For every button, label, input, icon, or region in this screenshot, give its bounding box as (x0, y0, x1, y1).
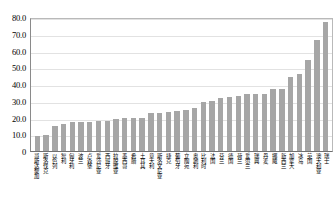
bar-slot (243, 19, 252, 151)
bar-slot (42, 19, 51, 151)
category-tick-label: 希腊 (130, 153, 136, 163)
category-slot: 卢森堡 (85, 153, 94, 216)
bar[interactable] (105, 121, 110, 151)
bar-slot (321, 19, 330, 151)
bar-slot (313, 19, 322, 151)
bar[interactable] (209, 101, 214, 151)
category-tick-label: 捷克 (166, 153, 172, 163)
category-tick-label: 土耳其 (139, 153, 145, 168)
category-slot: 智利 (58, 153, 67, 216)
bar[interactable] (96, 121, 101, 151)
bar-slot (138, 19, 147, 151)
bar-slot (251, 19, 260, 151)
bar-chart: 80.070.060.050.040.030.020.010.00 哥斯达黎加斯… (0, 0, 335, 216)
bar[interactable] (166, 112, 171, 151)
category-slot: 荷兰 (234, 153, 243, 216)
bar[interactable] (113, 119, 118, 151)
category-slot: 澳大利亚 (314, 153, 323, 216)
category-tick-label: 匈牙利 (69, 153, 75, 168)
category-slot: 希腊 (129, 153, 138, 216)
bar-slot (304, 19, 313, 151)
bar[interactable] (192, 108, 197, 151)
bar-slot (199, 19, 208, 151)
bar[interactable] (201, 102, 206, 151)
bar[interactable] (236, 96, 241, 151)
bar[interactable] (52, 126, 57, 151)
category-slot: 匈牙利 (67, 153, 76, 216)
bar[interactable] (323, 22, 328, 151)
category-slot: 奥地利 (190, 153, 199, 216)
bar-slot (190, 19, 199, 151)
bar-slot (208, 19, 217, 151)
category-slot: 以色列 (50, 153, 59, 216)
category-tick-label: 墨西哥 (122, 153, 128, 168)
bar-slot (147, 19, 156, 151)
bar[interactable] (131, 118, 136, 151)
bar[interactable] (139, 118, 144, 151)
bar[interactable] (270, 89, 275, 151)
bar[interactable] (157, 113, 162, 151)
bar[interactable] (227, 97, 232, 151)
category-slot: 加拿大 (287, 153, 296, 216)
bar[interactable] (288, 77, 293, 151)
category-slot: 斯洛文尼亚 (155, 153, 164, 216)
bar[interactable] (279, 89, 284, 151)
bar-slot (112, 19, 121, 151)
category-slot: 德国 (226, 153, 235, 216)
y-axis-tick-label: 10.0 (12, 130, 26, 140)
bar-slot (155, 19, 164, 151)
bar-slot (103, 19, 112, 151)
bar-slot (173, 19, 182, 151)
category-slot: 葡萄牙 (173, 153, 182, 216)
bar[interactable] (244, 94, 249, 151)
bar[interactable] (78, 122, 83, 151)
bar[interactable] (262, 94, 267, 151)
category-tick-label: 西班牙 (104, 153, 110, 168)
category-slot: 挪威 (270, 153, 279, 216)
category-tick-label: 澳大利亚 (315, 153, 321, 173)
bar-slot (278, 19, 287, 151)
category-slot: 比利时 (199, 153, 208, 216)
plot-area (30, 18, 333, 152)
category-slot: 捷克 (164, 153, 173, 216)
bar[interactable] (314, 40, 319, 151)
category-slot: 爱尔兰 (243, 153, 252, 216)
bar-slot (33, 19, 42, 151)
category-slot: 波兰 (76, 153, 85, 216)
category-tick-label: 比利时 (201, 153, 207, 168)
category-slot: 芬兰 (217, 153, 226, 216)
category-slot: 墨西哥 (120, 153, 129, 216)
category-slot: 土耳其 (138, 153, 147, 216)
category-slot: 法国 (208, 153, 217, 216)
bar[interactable] (218, 98, 223, 151)
bar[interactable] (61, 124, 66, 151)
bar-slot (181, 19, 190, 151)
category-slot: 瑞典 (252, 153, 261, 216)
bar[interactable] (305, 60, 310, 151)
category-slot: 立陶宛 (182, 153, 191, 216)
bar[interactable] (43, 135, 48, 151)
category-tick-label: 瑞典 (254, 153, 260, 163)
bar-slot (225, 19, 234, 151)
category-tick-label: 波兰 (78, 153, 84, 163)
bar-slot (120, 19, 129, 151)
bar[interactable] (174, 111, 179, 151)
bar[interactable] (297, 74, 302, 151)
category-slot: 意大利 (146, 153, 155, 216)
category-slot: 冰岛 (296, 153, 305, 216)
bar[interactable] (35, 136, 40, 151)
category-tick-label: 荷兰 (236, 153, 242, 163)
bar[interactable] (148, 113, 153, 151)
category-tick-label: 挪威 (271, 153, 277, 163)
y-axis-tick-label: 60.0 (12, 47, 26, 57)
category-slot: 丹麦 (261, 153, 270, 216)
category-tick-label: 拉脱维亚 (113, 153, 119, 173)
bar[interactable] (183, 110, 188, 151)
bar[interactable] (122, 118, 127, 151)
bar[interactable] (70, 122, 75, 151)
category-tick-label: 芬兰 (218, 153, 224, 163)
bar[interactable] (87, 122, 92, 151)
bar-slot (94, 19, 103, 151)
bar-slot (50, 19, 59, 151)
bar[interactable] (253, 94, 258, 151)
